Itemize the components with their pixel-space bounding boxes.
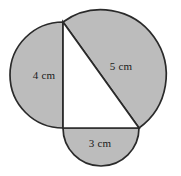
figure-canvas: 4 cm 5 cm 3 cm: [0, 0, 181, 176]
geometry-figure: 4 cm 5 cm 3 cm: [0, 0, 181, 176]
label-5cm: 5 cm: [110, 60, 133, 72]
label-3cm: 3 cm: [89, 137, 112, 149]
label-4cm: 4 cm: [33, 69, 56, 81]
